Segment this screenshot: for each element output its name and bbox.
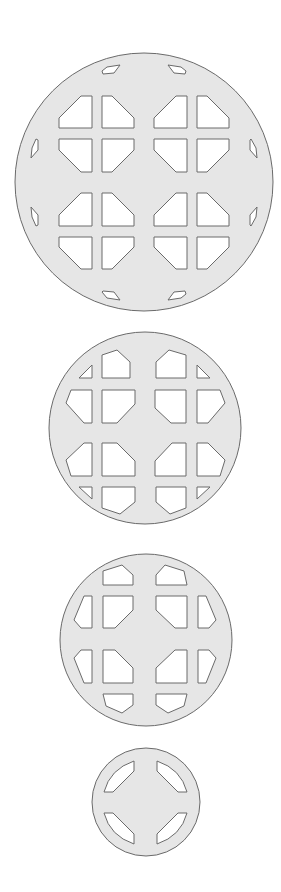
plate-3 xyxy=(60,554,232,726)
plate-2 xyxy=(49,332,241,524)
plate-1 xyxy=(15,53,273,311)
perforated-plates-diagram xyxy=(0,0,281,892)
plate-4 xyxy=(92,748,200,856)
